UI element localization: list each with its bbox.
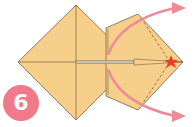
lower-arrowhead [172, 110, 186, 122]
step-number-badge: 6 [3, 85, 39, 121]
upper-arrowhead [172, 2, 186, 14]
center-slit [76, 61, 134, 64]
